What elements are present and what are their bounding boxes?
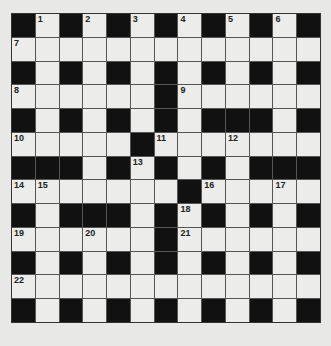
answer-cell[interactable]: 15 [36,180,59,203]
answer-cell[interactable]: 22 [12,275,35,298]
answer-cell[interactable] [60,228,83,251]
answer-cell[interactable] [36,62,59,85]
answer-cell[interactable] [250,275,273,298]
answer-cell[interactable]: 20 [83,228,106,251]
answer-cell[interactable] [83,275,106,298]
answer-cell[interactable] [107,275,130,298]
answer-cell[interactable] [155,180,178,203]
answer-cell[interactable] [107,38,130,61]
answer-cell[interactable] [273,228,296,251]
answer-cell[interactable] [83,180,106,203]
answer-cell[interactable] [131,180,154,203]
answer-cell[interactable]: 5 [226,14,249,37]
answer-cell[interactable] [36,275,59,298]
answer-cell[interactable] [36,228,59,251]
answer-cell[interactable] [36,38,59,61]
answer-cell[interactable] [250,85,273,108]
answer-cell[interactable] [107,85,130,108]
answer-cell[interactable] [83,109,106,132]
answer-cell[interactable] [178,299,201,322]
answer-cell[interactable] [178,157,201,180]
answer-cell[interactable]: 4 [178,14,201,37]
answer-cell[interactable] [83,252,106,275]
answer-cell[interactable] [178,133,201,156]
answer-cell[interactable] [178,38,201,61]
answer-cell[interactable] [202,85,225,108]
answer-cell[interactable]: 19 [12,228,35,251]
answer-cell[interactable]: 12 [226,133,249,156]
answer-cell[interactable] [83,38,106,61]
answer-cell[interactable] [36,133,59,156]
answer-cell[interactable] [131,228,154,251]
answer-cell[interactable] [226,157,249,180]
answer-cell[interactable] [202,228,225,251]
answer-cell[interactable]: 7 [12,38,35,61]
answer-cell[interactable] [60,180,83,203]
answer-cell[interactable] [297,38,320,61]
answer-cell[interactable] [273,275,296,298]
answer-cell[interactable]: 6 [273,14,296,37]
answer-cell[interactable] [226,62,249,85]
answer-cell[interactable] [226,252,249,275]
answer-cell[interactable]: 1 [36,14,59,37]
answer-cell[interactable] [297,85,320,108]
answer-cell[interactable] [202,38,225,61]
answer-cell[interactable] [36,252,59,275]
answer-cell[interactable] [297,275,320,298]
answer-cell[interactable]: 17 [273,180,296,203]
answer-cell[interactable] [83,157,106,180]
answer-cell[interactable]: 13 [131,157,154,180]
answer-cell[interactable] [178,275,201,298]
answer-cell[interactable] [83,85,106,108]
answer-cell[interactable] [60,38,83,61]
answer-cell[interactable]: 8 [12,85,35,108]
answer-cell[interactable] [297,180,320,203]
answer-cell[interactable]: 2 [83,14,106,37]
answer-cell[interactable] [250,228,273,251]
answer-cell[interactable] [226,299,249,322]
answer-cell[interactable] [107,133,130,156]
answer-cell[interactable] [273,204,296,227]
answer-cell[interactable] [60,85,83,108]
answer-cell[interactable] [36,85,59,108]
answer-cell[interactable] [131,299,154,322]
answer-cell[interactable] [131,109,154,132]
answer-cell[interactable] [60,133,83,156]
answer-cell[interactable] [273,133,296,156]
answer-cell[interactable] [226,204,249,227]
answer-cell[interactable] [83,62,106,85]
answer-cell[interactable] [155,38,178,61]
answer-cell[interactable] [60,275,83,298]
answer-cell[interactable] [297,228,320,251]
answer-cell[interactable] [178,252,201,275]
answer-cell[interactable] [83,299,106,322]
answer-cell[interactable] [155,275,178,298]
answer-cell[interactable] [273,109,296,132]
answer-cell[interactable] [226,228,249,251]
answer-cell[interactable] [131,275,154,298]
answer-cell[interactable]: 16 [202,180,225,203]
answer-cell[interactable] [131,252,154,275]
answer-cell[interactable] [226,180,249,203]
answer-cell[interactable]: 3 [131,14,154,37]
answer-cell[interactable]: 11 [155,133,178,156]
answer-cell[interactable]: 21 [178,228,201,251]
answer-cell[interactable] [178,62,201,85]
answer-cell[interactable] [36,299,59,322]
answer-cell[interactable] [131,62,154,85]
answer-cell[interactable]: 10 [12,133,35,156]
answer-cell[interactable] [131,38,154,61]
answer-cell[interactable] [36,204,59,227]
answer-cell[interactable] [250,180,273,203]
answer-cell[interactable] [178,109,201,132]
answer-cell[interactable] [107,180,130,203]
answer-cell[interactable] [226,38,249,61]
answer-cell[interactable] [226,85,249,108]
answer-cell[interactable] [273,299,296,322]
answer-cell[interactable] [131,204,154,227]
answer-cell[interactable]: 9 [178,85,201,108]
answer-cell[interactable] [250,38,273,61]
answer-cell[interactable]: 14 [12,180,35,203]
answer-cell[interactable] [202,275,225,298]
answer-cell[interactable]: 18 [178,204,201,227]
